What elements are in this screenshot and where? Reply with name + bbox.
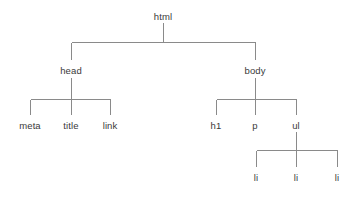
tree-node-h1: h1	[211, 120, 222, 131]
tree-node-ul: ul	[292, 120, 300, 131]
dom-tree-diagram: html head body meta title link h1 p ul l…	[0, 0, 354, 201]
tree-node-html: html	[154, 11, 172, 22]
tree-connector-lines	[0, 0, 354, 201]
tree-node-li-2: li	[294, 172, 298, 183]
tree-node-meta: meta	[19, 120, 41, 131]
tree-node-li-3: li	[335, 172, 339, 183]
tree-node-li-1: li	[254, 172, 258, 183]
tree-node-p: p	[252, 120, 257, 131]
tree-node-head: head	[60, 65, 82, 76]
tree-node-body: body	[244, 65, 265, 76]
tree-node-title: title	[63, 120, 78, 131]
tree-node-link: link	[103, 120, 118, 131]
